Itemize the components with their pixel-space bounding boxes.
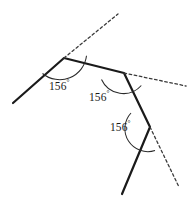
angle-label-3: 156° bbox=[110, 120, 131, 133]
dashed-ray-1 bbox=[64, 14, 118, 58]
dashed-ray-2 bbox=[124, 73, 186, 86]
degree-symbol-3: ° bbox=[128, 119, 131, 128]
angle-label-3-value: 156 bbox=[110, 121, 128, 133]
degree-symbol-2: ° bbox=[107, 89, 110, 98]
angle-label-1-value: 156 bbox=[49, 80, 67, 92]
geometry-figure: 156° 156° 156° bbox=[0, 0, 193, 199]
angle-label-2: 156° bbox=[89, 90, 110, 103]
angle-label-2-value: 156 bbox=[89, 91, 107, 103]
dashed-ray-3 bbox=[150, 127, 179, 187]
angle-arc-1 bbox=[43, 56, 87, 80]
angle-label-1: 156° bbox=[49, 79, 70, 92]
degree-symbol-1: ° bbox=[67, 78, 70, 87]
